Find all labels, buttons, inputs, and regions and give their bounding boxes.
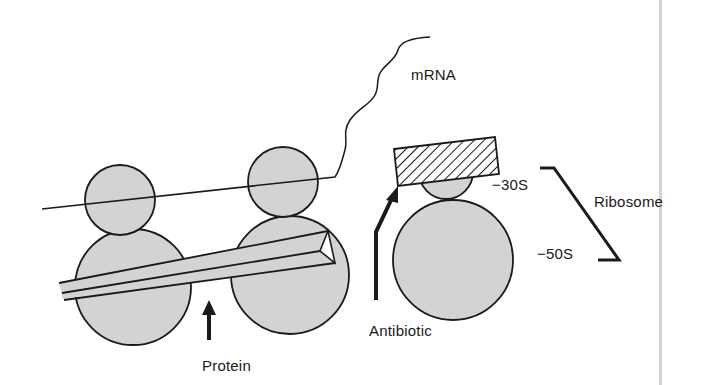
label-antibiotic: Antibiotic [369, 322, 432, 339]
ribosome-1 [75, 165, 191, 345]
subunit-50s-3 [393, 200, 513, 320]
protein-arrowhead [202, 300, 216, 315]
label-50s: −50S [537, 245, 573, 262]
label-30s: −30S [492, 176, 528, 193]
antibiotic-arrow [376, 196, 393, 300]
antibiotic-molecule [394, 137, 499, 186]
label-ribosome: Ribosome [594, 193, 663, 210]
antibiotic-arrowhead [386, 186, 398, 203]
ribosome-antibiotic-diagram: mRNA −30S Ribosome −50S Antibiotic Prote… [0, 0, 710, 385]
label-mrna: mRNA [411, 66, 456, 83]
label-protein: Protein [202, 357, 251, 374]
